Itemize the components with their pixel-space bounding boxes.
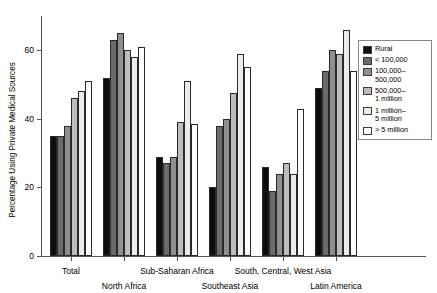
bar <box>336 54 343 256</box>
bars-layer <box>41 16 352 256</box>
x-axis-label: Southeast Asia <box>202 282 259 291</box>
bar <box>297 109 304 256</box>
bar <box>230 93 237 256</box>
legend-item[interactable]: 500,000– 1 million <box>363 87 428 104</box>
bar <box>237 54 244 256</box>
bar <box>124 50 131 256</box>
legend-swatch-icon <box>363 68 372 76</box>
bar <box>290 174 297 256</box>
bar <box>71 98 78 256</box>
x-axis-label: Sub-Saharan Africa <box>140 267 214 276</box>
bar <box>343 30 350 256</box>
bar <box>276 174 283 256</box>
bar <box>177 122 184 256</box>
y-axis-title: Percentage Using Private Medical Sources <box>6 28 20 252</box>
bar <box>50 136 57 256</box>
bar <box>329 50 336 256</box>
x-tick-mark <box>336 256 337 261</box>
x-axis-line <box>41 256 426 257</box>
bar <box>244 67 251 256</box>
legend-swatch-icon <box>363 127 372 135</box>
x-tick-mark <box>230 256 231 261</box>
y-tick-label: 0 <box>29 252 34 261</box>
bar <box>103 78 110 256</box>
legend: Rural< 100,000100,000– 500,000500,000– 1… <box>358 40 432 140</box>
legend-label: Rural <box>375 45 392 54</box>
legend-swatch-icon <box>363 46 372 54</box>
bar <box>350 71 357 256</box>
bar <box>163 163 170 256</box>
x-axis-label: North Africa <box>102 282 146 291</box>
bar <box>156 157 163 256</box>
x-axis-label: Latin America <box>310 282 362 291</box>
legend-label: 1 million– 5 million <box>375 107 406 124</box>
bar <box>64 126 71 256</box>
x-tick-mark <box>177 256 178 261</box>
legend-swatch-icon <box>363 87 372 95</box>
y-tick-label: 20 <box>25 183 34 192</box>
legend-swatch-icon <box>363 107 372 115</box>
legend-item[interactable]: Rural <box>363 45 428 54</box>
bar <box>191 124 198 256</box>
bar <box>269 191 276 256</box>
bar <box>262 167 269 256</box>
bar <box>170 157 177 256</box>
x-tick-mark <box>283 256 284 261</box>
bar <box>117 33 124 256</box>
x-tick-mark <box>124 256 125 261</box>
x-tick-mark <box>71 256 72 261</box>
bar <box>216 126 223 256</box>
bar-chart: Percentage Using Private Medical Sources… <box>0 0 437 293</box>
plot-area: 0204060 TotalNorth AfricaSub-Saharan Afr… <box>41 16 352 256</box>
bar <box>131 57 138 256</box>
x-axis-label: Total <box>62 267 80 276</box>
legend-item[interactable]: 100,000– 500,000 <box>363 67 428 84</box>
legend-item[interactable]: 1 million– 5 million <box>363 107 428 124</box>
y-axis-title-text: Percentage Using Private Medical Sources <box>9 62 17 218</box>
legend-item[interactable]: > 5 million <box>363 126 428 135</box>
y-tick-label: 40 <box>25 115 34 124</box>
bar <box>184 81 191 256</box>
y-tick-label: 60 <box>25 46 34 55</box>
legend-label: > 5 million <box>375 126 408 135</box>
bar <box>78 91 85 256</box>
legend-label: < 100,000 <box>375 56 408 65</box>
legend-label: 500,000– 1 million <box>375 87 405 104</box>
bar <box>322 71 329 256</box>
legend-label: 100,000– 500,000 <box>375 67 405 84</box>
y-tick-mark <box>37 256 42 257</box>
bar <box>315 88 322 256</box>
bar <box>209 187 216 256</box>
bar <box>138 47 145 256</box>
legend-swatch-icon <box>363 57 372 65</box>
bar <box>110 40 117 256</box>
bar <box>57 136 64 256</box>
legend-item[interactable]: < 100,000 <box>363 56 428 65</box>
bar <box>223 119 230 256</box>
x-axis-label: South, Central, West Asia <box>235 267 332 276</box>
bar <box>85 81 92 256</box>
bar <box>283 163 290 256</box>
